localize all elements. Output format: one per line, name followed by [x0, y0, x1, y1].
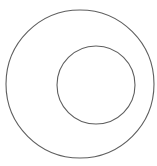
diagram-background: [0, 0, 157, 166]
two-circles-diagram: [0, 0, 157, 166]
